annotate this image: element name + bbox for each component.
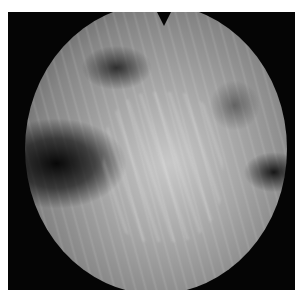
diagonal-light-streaks bbox=[103, 92, 223, 242]
image-frame bbox=[8, 12, 295, 290]
orientation-notch bbox=[157, 12, 171, 26]
